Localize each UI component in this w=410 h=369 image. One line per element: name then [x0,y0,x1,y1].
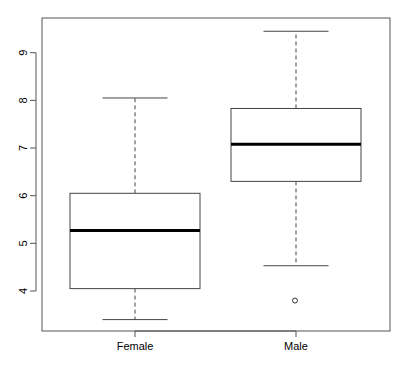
x-tick-label: Male [284,340,308,352]
outlier-point [293,298,298,303]
boxplot-chart: 456789 FemaleMale [0,0,410,369]
box-male [231,31,361,303]
iqr-box [70,193,200,288]
box-female [70,98,200,320]
boxes [70,31,361,319]
y-tick-label: 4 [17,288,29,294]
x-axis: FemaleMale [117,331,308,352]
y-tick-label: 8 [17,97,29,103]
y-tick-label: 9 [17,50,29,56]
x-tick-label: Female [117,340,154,352]
y-tick-label: 7 [17,145,29,151]
y-tick-label: 6 [17,193,29,199]
y-tick-label: 5 [17,240,29,246]
y-axis: 456789 [17,50,36,294]
